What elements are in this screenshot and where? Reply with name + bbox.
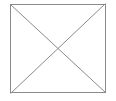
placeholder-canvas: Image placeholder bbox=[0, 0, 116, 101]
placeholder-image-icon bbox=[0, 0, 116, 101]
